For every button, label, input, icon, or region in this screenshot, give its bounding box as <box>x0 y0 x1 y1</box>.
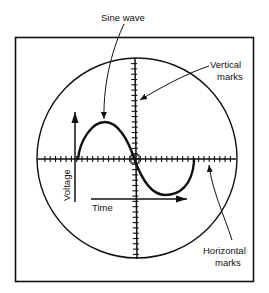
oscilloscope-diagram: Sine wave Vertical marks Horizontal mark… <box>0 0 269 293</box>
sine-wave-label: Sine wave <box>101 12 145 23</box>
oscilloscope-svg: Sine wave Vertical marks Horizontal mark… <box>0 0 269 293</box>
vertical-marks-leader-arrow-icon <box>140 66 209 100</box>
voltage-axis-label: Voltage <box>61 169 72 201</box>
horizontal-marks-leader-arrow-icon <box>209 165 232 240</box>
time-axis-label: Time <box>92 202 113 213</box>
vertical-marks-label-line1: Vertical <box>210 59 241 70</box>
vertical-marks-label-line2: marks <box>217 71 243 82</box>
horizontal-marks-label-line1: Horizontal <box>203 245 246 256</box>
horizontal-marks-label-line2: marks <box>215 257 241 268</box>
